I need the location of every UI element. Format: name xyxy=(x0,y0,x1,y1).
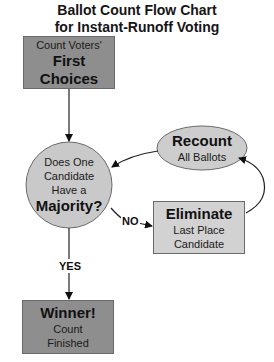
eliminate-line1: Eliminate xyxy=(166,205,233,223)
winner-line2: Count xyxy=(53,322,82,336)
no-edge-label: NO xyxy=(121,215,140,227)
decision-line4: Majority? xyxy=(36,197,103,215)
winner-line3: Finished xyxy=(47,336,89,350)
start-box: Count Voters' First Choices xyxy=(23,36,115,89)
start-box-line2: First Choices xyxy=(24,52,114,88)
recount-node: Recount All Ballots xyxy=(157,126,247,170)
decision-line1: Does One xyxy=(44,155,94,169)
start-box-line1: Count Voters' xyxy=(36,38,102,52)
eliminate-box: Eliminate Last Place Candidate xyxy=(153,201,245,254)
decision-node: Does One Candidate Have a Majority? xyxy=(26,142,112,228)
decision-line3: Have a xyxy=(52,183,87,197)
winner-box: Winner! Count Finished xyxy=(22,300,114,354)
yes-edge-label: YES xyxy=(58,259,82,273)
winner-line1: Winner! xyxy=(40,304,96,322)
arrow-recount-to-decision xyxy=(112,151,158,167)
eliminate-line2: Last Place xyxy=(173,223,224,237)
recount-line1: Recount xyxy=(172,132,232,150)
decision-line2: Candidate xyxy=(44,169,94,183)
eliminate-line3: Candidate xyxy=(174,237,224,251)
recount-line2: All Ballots xyxy=(178,150,226,164)
